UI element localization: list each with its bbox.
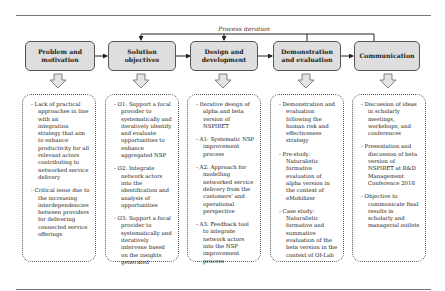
stage-body-communication: Discussion of ideas in scholarly meeting… [352, 94, 426, 262]
list-item: A2: Approach for modelling networked ser… [196, 164, 255, 215]
stage-header-communication: Communication [354, 41, 420, 71]
stage-header-design: Design and development [190, 41, 258, 71]
stage-body-objectives: O1: Support a focal provider to systemat… [105, 94, 179, 262]
list-item: Critical issue due to the increasing int… [31, 187, 90, 238]
stage-body-demonstration: Demonstration and evaluation following t… [270, 94, 344, 262]
list-item: Discussion of ideas in scholarly meeting… [361, 101, 420, 137]
stage-body-design: Iterative design of alpha and beta versi… [187, 94, 261, 262]
list-item: Lack of practical approaches in line wit… [31, 101, 90, 181]
list-item: Objective to communicate final results i… [361, 193, 420, 229]
list-item: Case study: Naturalistic formative and s… [279, 208, 338, 259]
list-item: Presentation and discussion of beta vers… [361, 143, 420, 187]
stage-body-problem: Lack of practical approaches in line wit… [22, 94, 96, 262]
stage-header-objectives: Solution objectives [108, 41, 176, 71]
stage-header-demonstration: Demonstration and evaluation [273, 41, 341, 71]
list-item: Iterative design of alpha and beta versi… [196, 101, 255, 130]
list-item: O1: Support a focal provider to systemat… [114, 101, 173, 159]
list-item: A1: Systematic NSP improvement process [196, 136, 255, 158]
list-item: O3: Support a focal provider to systemat… [114, 215, 173, 266]
list-item: O2: Integrate network actors into the id… [114, 165, 173, 209]
list-item: A3: Feedback tool to integrate network a… [196, 221, 255, 265]
list-item: Pre-study: Naturalistic formative evalua… [279, 151, 338, 202]
list-item: Demonstration and evaluation following t… [279, 101, 338, 145]
stage-header-problem: Problem and motivation [25, 41, 95, 71]
